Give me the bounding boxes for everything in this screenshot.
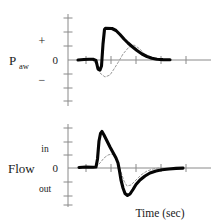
paw-negative-label: − (39, 73, 46, 87)
flow-zero-label: 0 (53, 162, 59, 174)
flow-dashed-trace (96, 154, 159, 186)
paw-label-main: P (9, 53, 16, 68)
paw-solid-trace (78, 28, 170, 70)
respiratory-waveform-figure: P aw + 0 − F (0, 0, 215, 222)
flow-positive-label: in (41, 144, 49, 154)
flow-label-main: Flow (8, 161, 35, 176)
airway-pressure-panel: P aw + 0 − (9, 14, 211, 106)
paw-positive-label: + (39, 34, 46, 48)
flow-panel: Flow in 0 out (8, 124, 211, 207)
paw-zero-label: 0 (53, 54, 59, 66)
paw-label-subscript: aw (19, 61, 30, 71)
flow-solid-trace (79, 132, 183, 196)
x-axis-title: Time (sec) (135, 207, 184, 220)
flow-negative-label: out (39, 184, 52, 194)
